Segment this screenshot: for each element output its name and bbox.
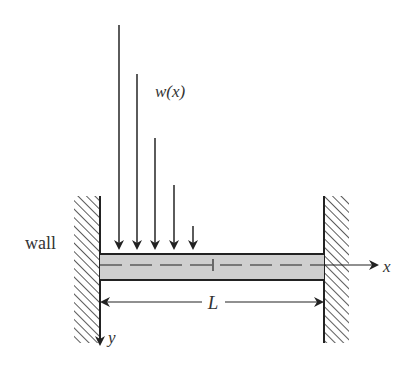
load-label: w(x): [155, 82, 186, 101]
beam: [100, 254, 324, 280]
length-dimension: L: [102, 292, 322, 313]
beam-diagram: x y L w(x) wall: [0, 0, 413, 377]
x-axis-label: x: [382, 257, 391, 276]
length-label: L: [207, 292, 219, 313]
y-axis: y: [100, 328, 116, 347]
left-wall: [74, 196, 100, 343]
right-wall: [324, 196, 349, 343]
y-axis-label: y: [106, 328, 116, 347]
distributed-load: w(x): [119, 25, 193, 248]
wall-label: wall: [25, 233, 56, 253]
